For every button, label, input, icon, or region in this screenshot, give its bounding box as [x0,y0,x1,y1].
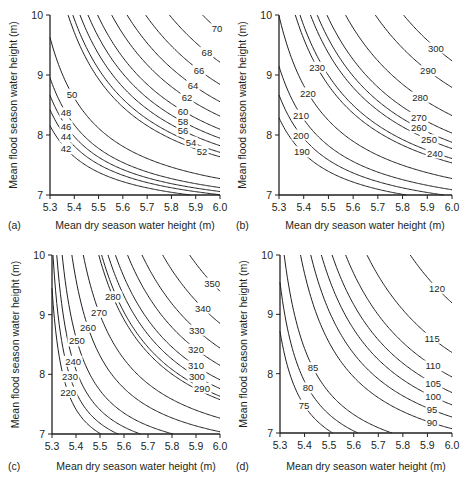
contour-line [346,255,452,377]
x-tick-label: 5.9 [420,201,435,213]
contour-line [83,255,220,418]
y-tick-label: 10 [33,249,45,261]
x-tick-label: 5.5 [91,201,106,213]
x-tick-label: 5.8 [164,201,179,213]
x-tick-label: 5.6 [116,201,131,213]
panel-label: (a) [8,219,21,231]
contour-label: 100 [425,391,441,402]
contour-line [317,15,452,142]
contour-label: 350 [204,278,220,289]
y-axis-title: Mean flood season water height (m) [237,260,249,428]
x-axis-title: Mean dry season water height (m) [56,460,215,472]
contour-label: 220 [300,88,316,99]
x-tick-label: 6.0 [445,201,460,213]
contour-label: 90 [427,417,438,428]
x-tick-label: 5.5 [321,201,336,213]
contour-lines [279,15,452,195]
y-tick-label: 9 [39,309,45,321]
contour-label: 105 [425,378,441,389]
contour-lines [50,15,220,195]
x-tick-label: 5.3 [45,440,60,452]
contour-label: 115 [425,333,440,344]
contour-label: 280 [412,92,428,103]
x-tick-label: 5.4 [69,440,84,452]
x-tick-label: 5.9 [189,440,204,452]
contour-label: 310 [188,360,204,371]
contour-line [410,255,452,303]
y-tick-label: 8 [266,129,272,141]
contour-label: 270 [91,307,107,318]
x-tick-label: 5.8 [396,439,411,451]
contour-label: 75 [299,400,310,411]
y-tick-label: 7 [266,189,272,201]
x-tick-label: 5.5 [93,440,108,452]
contour-label: 210 [293,110,309,121]
contour-line [346,15,452,116]
contour-panel-a: 4244464850525456586062646668705.35.45.55… [7,9,227,231]
panel-label: (c) [8,460,20,472]
panel-label: (b) [236,219,249,231]
y-tick-label: 9 [266,69,272,81]
contour-label: 54 [186,137,197,148]
contour-label: 330 [189,325,205,336]
x-tick-label: 5.6 [346,439,361,451]
y-tick-label: 9 [37,69,43,81]
x-tick-label: 5.9 [420,439,435,451]
contour-label: 42 [61,143,72,154]
x-tick-label: 5.6 [117,440,132,452]
contour-label: 120 [429,283,445,294]
x-tick-label: 5.3 [272,201,287,213]
x-tick-label: 5.6 [346,201,361,213]
x-tick-label: 6.0 [213,440,228,452]
y-tick-label: 8 [267,368,273,380]
x-axis-title: Mean dry season water height (m) [55,219,214,231]
contour-panel-d: 75808590951001051101151205.35.45.55.65.7… [236,249,459,472]
contour-label: 50 [67,89,78,100]
contour-panel-b: 1902002102202302402502602702802903005.35… [236,9,459,231]
x-tick-label: 5.3 [43,201,58,213]
contour-label: 95 [427,404,438,415]
x-tick-label: 5.7 [141,440,156,452]
x-tick-label: 5.7 [371,439,386,451]
contour-label: 58 [178,116,189,127]
contour-label: 70 [212,23,223,34]
y-tick-label: 7 [37,189,43,201]
x-tick-label: 5.4 [297,439,312,451]
contour-panel-c: 2202302402502602702802903003103203303403… [8,249,227,472]
contour-label: 260 [80,322,96,333]
y-tick-label: 10 [31,9,43,21]
contour-line [404,15,452,61]
y-tick-label: 7 [39,428,45,440]
contour-label: 230 [62,371,78,382]
x-tick-label: 5.8 [395,201,410,213]
y-tick-label: 8 [39,368,45,380]
contour-label: 300 [428,43,444,54]
contour-line [280,282,358,433]
y-tick-label: 10 [260,9,272,21]
x-tick-label: 5.3 [273,439,288,451]
contour-label: 230 [309,62,325,73]
contour-figure: 4244464850525456586062646668705.35.45.55… [0,0,468,483]
x-tick-label: 5.5 [322,439,337,451]
contour-label: 48 [61,107,72,118]
contour-label: 290 [420,65,436,76]
x-tick-label: 5.8 [165,440,180,452]
contour-label: 46 [61,121,72,132]
contour-line [50,110,220,195]
contour-label: 52 [197,146,208,157]
contour-label: 68 [202,47,213,58]
contour-label: 85 [308,362,319,373]
contour-label: 260 [411,122,427,133]
panel-label: (d) [236,460,249,472]
x-tick-label: 5.7 [140,201,155,213]
contour-label: 240 [65,356,81,367]
contour-label: 250 [69,335,85,346]
y-tick-label: 8 [37,129,43,141]
y-axis-title: Mean flood season water height (m) [236,21,248,189]
contour-label: 340 [195,303,211,314]
y-tick-label: 9 [267,308,273,320]
x-tick-label: 5.7 [371,201,386,213]
y-tick-label: 7 [267,427,273,439]
contour-labels: 190200210220230240250260270280290300 [292,43,446,159]
contour-label: 250 [421,134,437,145]
